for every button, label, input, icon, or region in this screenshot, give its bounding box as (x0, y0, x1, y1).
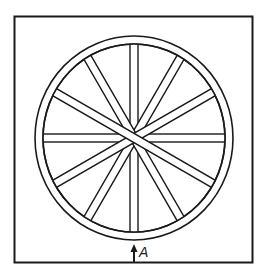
wheel-illusion-figure: A (0, 0, 265, 280)
label-a: A (138, 244, 148, 260)
